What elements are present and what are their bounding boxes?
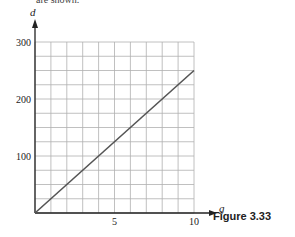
- x-tick-label: 10: [189, 216, 199, 227]
- line-chart: 100200300510 d g: [0, 0, 295, 237]
- y-tick-label: 200: [16, 94, 31, 105]
- y-axis-label: d: [30, 6, 36, 18]
- y-tick-label: 300: [16, 37, 31, 48]
- figure-caption: Figure 3.33: [213, 210, 271, 222]
- axes: [32, 19, 217, 216]
- y-tick-label: 100: [16, 151, 31, 162]
- y-axis-arrow-icon: [32, 19, 38, 28]
- x-tick-label: 5: [112, 216, 117, 227]
- grid: [35, 42, 194, 213]
